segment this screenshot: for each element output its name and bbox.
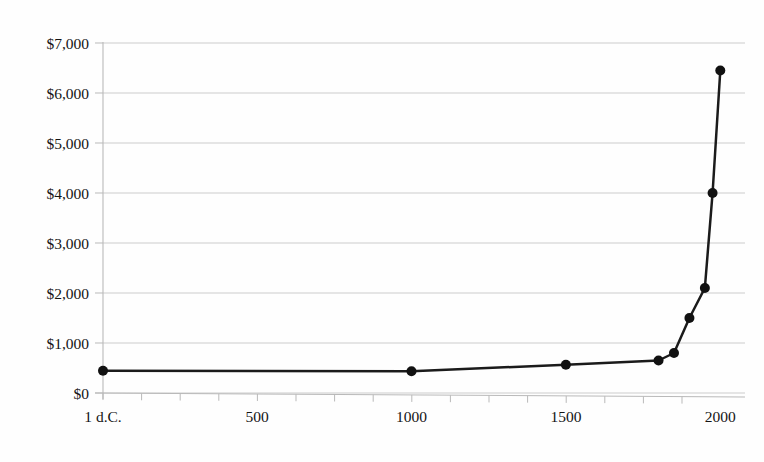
y-tick-label-1000: $1,000	[46, 335, 89, 352]
data-point-1950	[700, 283, 710, 293]
y-tick-label-6000: $6,000	[46, 85, 89, 102]
data-point-1500	[561, 360, 571, 370]
data-point-1800	[654, 356, 664, 366]
y-tick-label-0: $0	[74, 385, 90, 402]
data-point-1900	[684, 313, 694, 323]
data-point-1975	[708, 188, 718, 198]
line-chart: $0$1,000$2,000$3,000$4,000$5,000$6,000$7…	[0, 0, 764, 462]
y-tick-label-7000: $7,000	[46, 35, 89, 52]
data-point-1000	[406, 366, 416, 376]
chart-container: $0$1,000$2,000$3,000$4,000$5,000$6,000$7…	[0, 0, 764, 462]
data-point-markers	[98, 66, 725, 377]
series-line-gdp-per-capita	[103, 71, 720, 372]
x-tick-label-1000: 1000	[396, 408, 427, 425]
gridlines	[103, 43, 745, 393]
x-tick-label-1dC: 1 d.C.	[84, 408, 121, 425]
y-tick-label-2000: $2,000	[46, 285, 89, 302]
data-series-gdp-per-capita	[103, 71, 720, 372]
x-tick-label-500: 500	[245, 408, 269, 425]
y-tick-label-5000: $5,000	[46, 135, 89, 152]
x-tick-labels: 1 d.C.500100015002000	[84, 408, 736, 425]
y-tick-label-3000: $3,000	[46, 235, 89, 252]
x-tick-label-1500: 1500	[550, 408, 581, 425]
y-tick-labels: $0$1,000$2,000$3,000$4,000$5,000$6,000$7…	[46, 35, 89, 402]
x-axis-line	[95, 393, 745, 397]
x-tick-label-2000: 2000	[705, 408, 736, 425]
y-axis	[95, 42, 103, 399]
x-axis	[95, 393, 745, 404]
data-point-1850	[669, 348, 679, 358]
data-point-2000	[715, 66, 725, 76]
y-tick-label-4000: $4,000	[46, 185, 89, 202]
data-point-1	[98, 366, 108, 376]
